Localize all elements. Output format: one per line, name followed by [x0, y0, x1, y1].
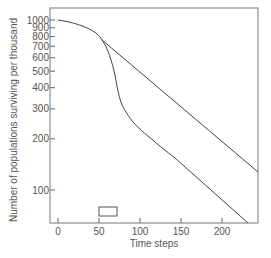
x-tick-label: 50 [93, 226, 105, 237]
y-tick-label: 200 [32, 133, 49, 144]
plot-frame [50, 8, 258, 223]
y-tick-label: 400 [32, 82, 49, 93]
x-tick-label: 0 [55, 226, 61, 237]
series-steep-decline [102, 40, 248, 223]
y-tick-label: 600 [32, 52, 49, 63]
y-axis-title: Number of populations surviving per thou… [8, 18, 19, 222]
y-axis [50, 20, 55, 190]
x-tick-label: 200 [214, 226, 231, 237]
y-tick-label: 100 [32, 185, 49, 196]
interval-box [99, 207, 117, 216]
y-tick-label: 500 [32, 66, 49, 77]
series-gradual-decline [58, 20, 258, 172]
y-tick-label: 300 [32, 103, 49, 114]
x-axis-title: Time steps [130, 238, 179, 249]
chart-svg: 1000 900 800 700 600 500 400 300 200 100… [0, 0, 271, 258]
x-tick-label: 100 [132, 226, 149, 237]
x-axis [58, 218, 222, 223]
x-tick-label: 150 [173, 226, 190, 237]
y-tick-label: 700 [32, 41, 49, 52]
